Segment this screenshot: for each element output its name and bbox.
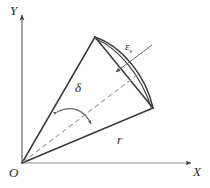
figure-canvas: Y X O δ r εv [0, 0, 210, 188]
cone-axis-group [23, 72, 141, 162]
cone-axis-dashed [23, 72, 141, 162]
delta-angle-group [57, 109, 91, 124]
epsilon-label: εv [125, 41, 132, 55]
cone-edge-upper [22, 37, 95, 163]
cone-base-chord [95, 37, 153, 108]
axis-group [22, 15, 191, 163]
delta-angle-label: δ [75, 81, 81, 94]
diagram-svg [0, 0, 210, 188]
cone-body [22, 37, 153, 163]
origin-label: O [9, 166, 18, 179]
y-axis-label: Y [10, 4, 17, 17]
radius-label: r [117, 133, 122, 146]
epsilon-subscript: v [129, 47, 132, 55]
cone-edge-lower [22, 108, 153, 163]
x-axis-label: X [193, 165, 201, 178]
delta-arc [57, 109, 91, 124]
